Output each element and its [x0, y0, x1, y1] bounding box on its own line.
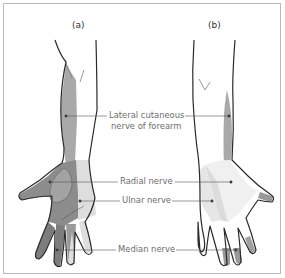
nerve-distribution-illustration — [0, 0, 285, 278]
label-ulnar-nerve: Ulnar nerve — [121, 195, 172, 205]
panel-label-a: (a) — [71, 20, 86, 30]
label-radial-nerve: Radial nerve — [119, 176, 174, 186]
label-lateral-cutaneous-line1: Lateral cutaneous — [108, 110, 185, 120]
panel-label-b: (b) — [207, 20, 222, 30]
label-median-nerve: Median nerve — [117, 244, 176, 254]
arm-b — [193, 40, 274, 266]
arm-a — [19, 40, 97, 267]
label-lateral-cutaneous-line2: nerve of forearm — [110, 121, 182, 131]
